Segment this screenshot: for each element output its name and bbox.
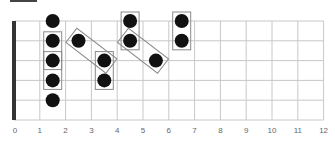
note-dot [97,73,111,87]
nut [12,21,16,120]
fret-number-labels: 0123456789101112 [13,126,329,135]
note-dot [46,14,60,28]
note-dot [46,54,60,68]
fret-label: 3 [89,126,94,135]
fret-label: 11 [294,126,303,135]
note-dot [46,34,60,48]
note-dot [175,14,189,28]
note-dot [123,34,137,48]
fretboard-grid [14,21,324,120]
fret-label: 7 [192,126,197,135]
fret-label: 4 [115,126,120,135]
fret-label: 8 [218,126,223,135]
note-dot [149,54,163,68]
fret-label: 12 [319,126,328,135]
fret-label: 0 [13,126,18,135]
fret-label: 6 [167,126,172,135]
note-dot [175,34,189,48]
fret-label: 1 [38,126,43,135]
fret-label: 2 [63,126,68,135]
note-dot [72,34,86,48]
fretboard-diagram: 0123456789101112 [0,0,335,144]
note-dot [123,14,137,28]
note-dot [46,93,60,107]
note-dot [97,54,111,68]
nut-bar [12,21,16,120]
note-dot [46,73,60,87]
fret-label: 9 [244,126,249,135]
fret-label: 5 [141,126,146,135]
fret-label: 10 [268,126,277,135]
